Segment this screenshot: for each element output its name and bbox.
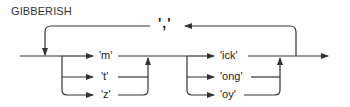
prefix-option-z: 'z' [101,88,111,100]
suffix-option-oy: 'oy' [220,88,236,100]
suffix-option-ong: 'ong' [220,70,243,82]
railroad-diagram: GIBBERISH ',' 'm' 't' 'z' 'ick' 'ong' 'o… [0,0,350,107]
diagram-title: GIBBERISH [11,5,72,17]
prefix-option-m: 'm' [99,49,112,61]
separator-label: ',' [158,15,172,31]
prefix-option-t: 't' [101,70,108,82]
suffix-option-ick: 'ick' [220,49,238,61]
